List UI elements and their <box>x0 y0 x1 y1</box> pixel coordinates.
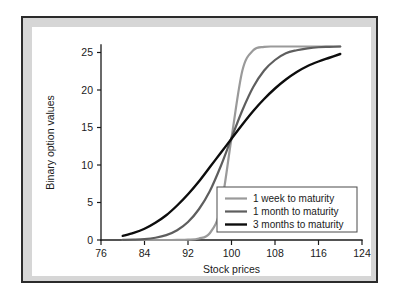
y-tick-label: 25 <box>81 46 93 58</box>
binary-option-values-chart: 0510152025 Binary option values 76849210… <box>32 27 371 276</box>
plot-canvas: 0510152025 Binary option values 76849210… <box>32 27 371 276</box>
legend-label: 1 week to maturity <box>253 193 334 204</box>
y-tick-label: 5 <box>87 196 93 208</box>
x-tick-label: 84 <box>139 247 151 259</box>
x-tick-label: 124 <box>353 247 371 259</box>
y-axis-group: 0510152025 Binary option values <box>44 45 101 246</box>
figure-mat: 0510152025 Binary option values 76849210… <box>23 18 376 281</box>
x-axis-group: 768492100108116124 Stock prices <box>95 240 371 275</box>
legend-label: 1 month to maturity <box>253 206 339 217</box>
screenshot-root: 0510152025 Binary option values 76849210… <box>0 0 400 300</box>
legend-label: 3 months to maturity <box>253 219 344 230</box>
y-tick-label: 20 <box>81 84 93 96</box>
y-tick-label: 0 <box>87 234 93 246</box>
y-tick-label: 10 <box>81 159 93 171</box>
y-axis-title: Binary option values <box>44 95 56 190</box>
x-tick-label: 76 <box>95 247 107 259</box>
x-axis-title: Stock prices <box>203 263 260 275</box>
figure-frame: 0510152025 Binary option values 76849210… <box>21 16 378 283</box>
y-tick-label: 15 <box>81 121 93 133</box>
x-tick-label: 100 <box>223 247 241 259</box>
x-tick-label: 116 <box>310 247 327 259</box>
x-tick-label: 92 <box>182 247 194 259</box>
x-tick-label: 108 <box>266 247 284 259</box>
y-axis-ticks: 0510152025 <box>81 46 101 246</box>
chart-legend: 1 week to maturity1 month to maturity3 m… <box>217 187 357 232</box>
x-axis-ticks: 768492100108116124 <box>95 240 371 259</box>
